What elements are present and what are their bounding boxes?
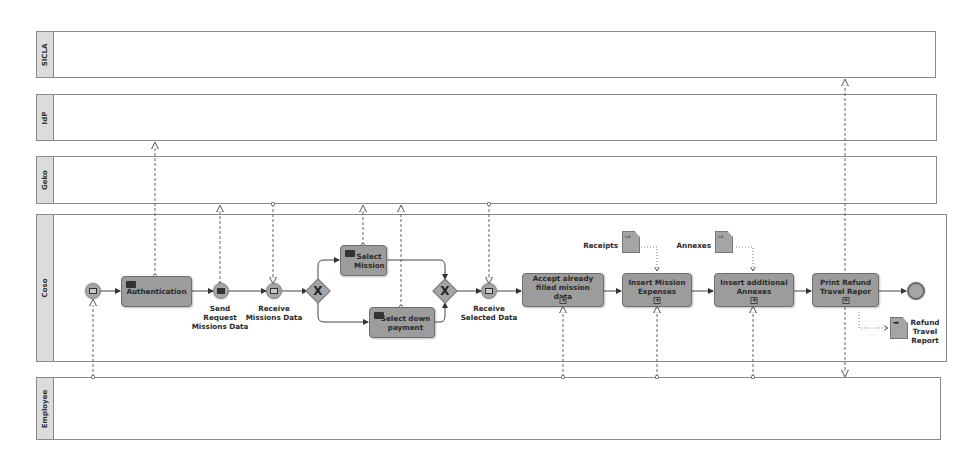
send-request-event[interactable]	[213, 283, 229, 299]
envelope-icon	[89, 288, 97, 294]
subprocess-marker[interactable]: +	[842, 297, 849, 304]
connectors	[0, 0, 978, 462]
receive-missions-label: ReceiveMissions Data	[244, 304, 304, 322]
data-object-refund-report[interactable]: ➡	[890, 317, 908, 339]
task-insert-expenses[interactable]: Insert Mission Expenses +	[622, 273, 692, 307]
task-accept-filled-data[interactable]: Accept already filled mission data +	[522, 273, 604, 307]
data-object-receipts[interactable]: ⇨	[622, 231, 640, 253]
subprocess-marker[interactable]: +	[654, 297, 661, 304]
task-insert-annexes[interactable]: Insert additional Annexes +	[714, 273, 794, 307]
task-authentication[interactable]: Authentication	[121, 276, 192, 307]
data-object-annexes[interactable]: ⇨	[715, 231, 733, 253]
user-task-icon	[345, 250, 355, 257]
user-task-icon	[374, 312, 384, 319]
task-select-mission[interactable]: Select Mission	[340, 245, 387, 276]
envelope-icon	[485, 288, 493, 294]
envelope-icon	[270, 288, 278, 294]
envelope-filled-icon	[217, 288, 225, 294]
receive-selected-event[interactable]	[481, 283, 497, 299]
data-input-icon: ⇨	[718, 233, 724, 241]
subprocess-marker[interactable]: +	[560, 297, 567, 304]
x-icon: X	[433, 279, 457, 303]
user-task-icon	[126, 281, 136, 288]
data-output-icon: ➡	[893, 319, 899, 327]
send-request-label: SendRequestMissions Data	[190, 304, 250, 331]
data-input-icon: ⇨	[625, 233, 631, 241]
receive-missions-event[interactable]	[266, 283, 282, 299]
end-event[interactable]	[907, 282, 925, 300]
receive-selected-label: ReceiveSelected Data	[459, 304, 519, 322]
x-icon: X	[306, 279, 330, 303]
subprocess-marker[interactable]: +	[751, 297, 758, 304]
task-select-down-payment[interactable]: Select down payment	[369, 307, 435, 338]
task-print-refund[interactable]: Print Refund Travel Repor +	[812, 273, 879, 307]
start-message-event[interactable]	[85, 283, 101, 299]
annexes-label: Annexes	[675, 241, 711, 250]
refund-report-label: RefundTravelReport	[909, 318, 941, 345]
receipts-label: Receipts	[582, 241, 618, 250]
